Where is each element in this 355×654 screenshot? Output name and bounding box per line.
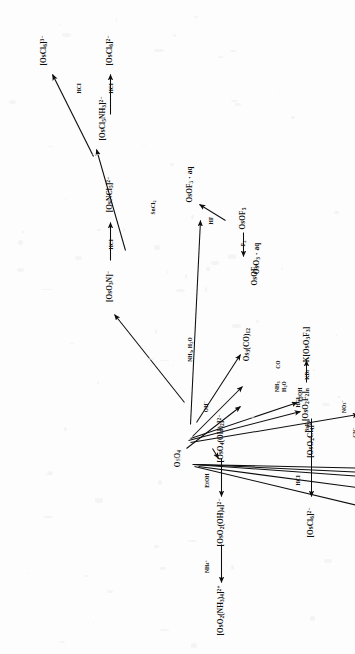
scan-artifact (170, 163, 175, 166)
reagent-r-oh-: OH− (202, 400, 209, 411)
reagent-r-hcl-1: HCl (75, 83, 81, 93)
species-osof4aq: OsOF3 · aq (186, 166, 195, 202)
species-oscl6_2b: [OsCl6]2− (306, 507, 315, 537)
scan-artifact (324, 559, 332, 563)
scan-artifact (185, 274, 187, 279)
reaction-arrow (193, 464, 355, 478)
reagent-r-nh3h2o2: NH3H2O (273, 381, 287, 392)
scan-artifact (188, 540, 197, 542)
scan-artifact (232, 324, 241, 328)
reaction-arrow (190, 220, 200, 424)
scan-artifact (75, 256, 82, 260)
reagent-r-hf: HF (207, 216, 213, 224)
scan-artifact (160, 360, 169, 361)
scan-artifact (218, 56, 223, 57)
diagram-canvas: OsO4[OsCl6]3−[OsCl5NH3]2−[OsNCl5]2−[OsCl… (0, 0, 355, 654)
scan-artifact (206, 267, 210, 271)
species-oso4oh2: [OsO4(OH)2]2− (216, 414, 225, 462)
scan-artifact (194, 16, 198, 18)
reaction-arrow (196, 464, 355, 476)
scan-artifact (48, 146, 53, 147)
scan-artifact (231, 100, 238, 102)
scan-artifact (154, 245, 160, 250)
reagent-r-no3-1: NO3− (339, 399, 347, 412)
scan-artifact (291, 116, 295, 119)
reaction-arrow (186, 406, 240, 448)
reaction-arrow (190, 414, 355, 442)
scan-artifact (154, 545, 159, 548)
scan-artifact (310, 616, 314, 621)
scan-artifact (123, 228, 125, 233)
scan-artifact (147, 358, 154, 360)
scan-artifact (27, 573, 29, 574)
species-oscl6_2: [OsCl6]2− (105, 35, 114, 65)
scan-artifact (97, 381, 99, 385)
scan-artifact (155, 329, 157, 334)
species-oso3n: [OsO3N]− (105, 271, 114, 302)
scan-artifact (235, 103, 241, 106)
reagent-r-hcl-5: HCl (294, 475, 300, 485)
species-os3co12: Os3(CO)12 (243, 327, 252, 360)
species-osof5: OsOF5 (239, 207, 248, 229)
reagent-r-f2: F2 (240, 240, 247, 246)
reagent-r-hcl-4: HCl (294, 397, 300, 407)
species-oscl6_3: [OsCl6]3− (39, 35, 48, 65)
reaction-arrow (188, 411, 300, 440)
scan-artifact (336, 334, 337, 337)
scan-artifact (281, 268, 283, 270)
scan-artifact (84, 575, 89, 577)
scan-artifact (230, 50, 235, 52)
scan-artifact (337, 396, 341, 398)
reagent-r-etoh-2: EtOH (203, 473, 209, 487)
reagent-r-nh3h2o: NH3, H2O (187, 337, 194, 362)
scan-artifact (60, 641, 65, 643)
diagram-sheet: OsO4[OsCl6]3−[OsCl5NH3]2−[OsNCl5]2−[OsCl… (0, 0, 355, 654)
species-oso2oh4: [OsO2(OH)4]2− (216, 498, 225, 546)
reagent-r-cn-2: CN− (351, 427, 355, 438)
scan-artifact (107, 590, 113, 593)
reagent-r-nh4: NH4+ (202, 559, 210, 572)
reagent-r-co: CO (274, 360, 280, 368)
reagent-r-kbr: KBr (303, 369, 309, 380)
scan-artifact (191, 643, 198, 647)
reaction-arrow (192, 464, 355, 468)
species-oso2nh34: [OsO2(NH3)4]2+ (216, 585, 225, 635)
reagent-r-hcl-3: HCl (107, 83, 113, 93)
scan-artifact (228, 254, 236, 258)
scan-artifact (70, 343, 74, 344)
scan-artifact (18, 240, 23, 245)
reagent-r-brf3: BrF3 (304, 420, 311, 432)
species-k_oso3f3: K[OsO3F3] (303, 326, 312, 361)
reaction-arrow (52, 74, 93, 156)
scan-artifact (205, 287, 207, 292)
scan-artifact (97, 229, 101, 231)
reagent-r-sncl2: SnCl2 (150, 200, 157, 214)
species-oso3aq: OsO3 · aq (253, 242, 262, 274)
scan-artifact (158, 480, 162, 485)
scan-artifact (313, 369, 315, 371)
scan-artifact (191, 215, 193, 219)
scan-artifact (160, 567, 166, 570)
species-oscl5nh3: [OsCl5NH3]2− (98, 96, 107, 140)
species-osncl5: [OsNCl5]2− (105, 176, 114, 211)
scan-artifact (44, 516, 53, 518)
species-oso2f2n: [OsO2F2]n (302, 388, 311, 421)
scan-artifact (9, 100, 16, 104)
scan-artifact (231, 565, 234, 569)
scan-artifact (17, 268, 24, 272)
scan-artifact (211, 261, 219, 265)
reagent-r-hcl-2: HCl (107, 239, 113, 249)
